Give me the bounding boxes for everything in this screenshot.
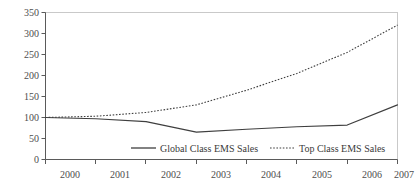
x-tick-label: 2003 (211, 169, 231, 180)
x-tick-label: 2006 (362, 169, 382, 180)
chart-background (0, 0, 420, 194)
y-tick-label: 300 (24, 28, 39, 39)
y-tick-label: 0 (34, 154, 39, 165)
line-chart: 350 300 250 200 150 100 50 0 (0, 0, 420, 194)
legend-label-global-class-ems-sales: Global Class EMS Sales (160, 143, 258, 154)
y-tick-label: 50 (29, 133, 39, 144)
legend-label-top-class-ems-sales: Top Class EMS Sales (299, 143, 385, 154)
y-tick-label: 100 (24, 112, 39, 123)
x-tick-label: 2002 (161, 169, 181, 180)
y-tick-label: 200 (24, 70, 39, 81)
x-tick-label: 2000 (60, 169, 80, 180)
x-tick-label: 2005 (312, 169, 332, 180)
y-tick-label: 350 (24, 7, 39, 18)
x-tick-label: 2004 (261, 169, 281, 180)
y-tick-label: 250 (24, 49, 39, 60)
chart-canvas: 350 300 250 200 150 100 50 0 (0, 0, 420, 194)
y-tick-label: 150 (24, 91, 39, 102)
x-tick-label: 2001 (110, 169, 130, 180)
x-tick-label: 2007 (394, 169, 414, 180)
